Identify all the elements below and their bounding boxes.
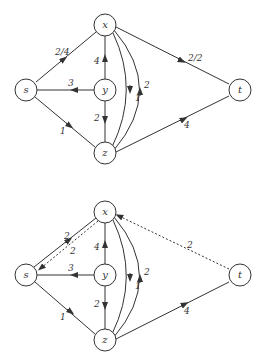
edge-t-x: 2 bbox=[119, 216, 229, 269]
edge-label: 2/4 bbox=[54, 47, 70, 57]
edge-s-z: 1 bbox=[35, 282, 95, 334]
node-t: t bbox=[229, 264, 251, 286]
svg-text:z: z bbox=[101, 334, 108, 345]
edge-y-z: 2 bbox=[93, 286, 105, 329]
edge-label: 2 bbox=[69, 246, 76, 256]
svg-text:x: x bbox=[102, 19, 108, 30]
svg-text:s: s bbox=[23, 84, 28, 95]
edge-y-z: 2 bbox=[93, 101, 105, 142]
node-y: y bbox=[94, 264, 116, 286]
edge-x-t: 2/2 bbox=[116, 27, 229, 84]
node-x: x bbox=[94, 201, 116, 223]
edge-y-s: 3 bbox=[37, 78, 94, 90]
edge-x-s: 2 bbox=[41, 221, 98, 268]
edge-label: 2 bbox=[93, 299, 100, 309]
edge-label: 2 bbox=[93, 113, 100, 123]
edge-label: 1 bbox=[60, 126, 66, 136]
diagram-canvas: 2/4 3 1 4 2 1 bbox=[0, 0, 264, 353]
node-y: y bbox=[94, 79, 116, 101]
edge-s-z: 1 bbox=[35, 97, 95, 147]
edge-label: 4 bbox=[93, 56, 100, 66]
node-z: z bbox=[94, 142, 116, 164]
svg-text:y: y bbox=[101, 84, 108, 95]
residual-network-graph: 2 2 3 1 4 2 bbox=[15, 201, 251, 351]
flow-network-graph: 2/4 3 1 4 2 1 bbox=[15, 14, 251, 164]
edge-label: 2/2 bbox=[187, 53, 203, 63]
node-t: t bbox=[229, 79, 251, 101]
svg-text:z: z bbox=[101, 147, 108, 158]
edge-z-t: 4 bbox=[116, 282, 229, 339]
edge-label: 1 bbox=[60, 312, 66, 322]
node-x: x bbox=[94, 14, 116, 36]
edge-label: 2 bbox=[143, 80, 150, 90]
node-s: s bbox=[15, 264, 37, 286]
edge-label: 4 bbox=[93, 242, 100, 252]
svg-text:y: y bbox=[101, 269, 108, 280]
edge-s-x: 2/4 bbox=[36, 32, 96, 82]
svg-text:x: x bbox=[102, 206, 108, 217]
edge-label: 4 bbox=[183, 306, 190, 316]
edge-y-x: 4 bbox=[93, 223, 105, 264]
edge-label: 2 bbox=[63, 231, 70, 241]
edge-s-x: 2 bbox=[34, 218, 96, 267]
edge-label: 3 bbox=[68, 263, 74, 273]
edge-label: 3 bbox=[68, 78, 74, 88]
svg-text:s: s bbox=[23, 269, 28, 280]
node-s: s bbox=[15, 79, 37, 101]
edge-label: 2 bbox=[186, 240, 193, 250]
edge-z-t: 4 bbox=[116, 96, 229, 152]
node-z: z bbox=[94, 329, 116, 351]
edge-y-x: 4 bbox=[93, 36, 105, 79]
edge-label: 2 bbox=[143, 267, 150, 277]
edge-label: 4 bbox=[183, 120, 190, 130]
